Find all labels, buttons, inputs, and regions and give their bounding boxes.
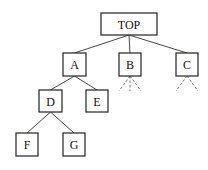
node-g: G [63, 133, 85, 156]
node-label: E [93, 95, 100, 109]
dashed-edge-b-0 [119, 76, 130, 91]
edge-top-b [129, 35, 130, 53]
node-b: B [119, 53, 141, 76]
tree-edges [27, 35, 187, 133]
node-label: A [70, 58, 79, 72]
tree-diagram: TOPABCDEFG [0, 0, 208, 170]
node-d: D [39, 90, 62, 112]
edge-top-c [129, 35, 187, 53]
node-f: F [16, 133, 38, 156]
edge-d-f [27, 112, 51, 133]
edge-top-a [75, 35, 130, 53]
node-a: A [63, 53, 86, 76]
node-label: G [70, 138, 79, 152]
tree-nodes: TOPABCDEFG [16, 13, 198, 156]
dashed-edge-c-1 [187, 76, 198, 91]
node-label: D [46, 95, 55, 109]
node-top: TOP [101, 13, 157, 35]
edge-a-e [75, 76, 98, 90]
edge-a-d [51, 76, 75, 90]
node-label: F [24, 138, 31, 152]
dashed-edge-b-2 [130, 76, 141, 91]
dashed-edge-c-0 [176, 76, 187, 91]
node-e: E [86, 90, 108, 112]
node-label: B [126, 58, 134, 72]
edge-d-g [51, 112, 75, 133]
dashed-continuations [119, 76, 198, 91]
node-c: C [176, 53, 198, 76]
node-label: C [183, 58, 191, 72]
node-label: TOP [118, 18, 141, 32]
